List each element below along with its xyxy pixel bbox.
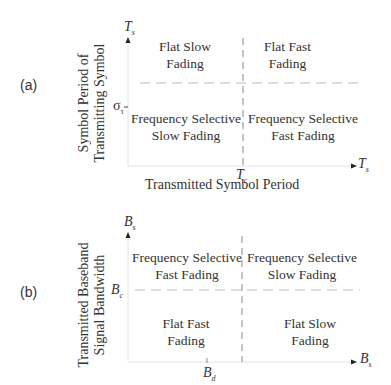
panel-b-x-arrow-icon	[351, 360, 357, 365]
panel-b-y-label-line2: Signal Bandwidth	[92, 220, 108, 385]
panel-a-region-flat-fast: Flat FastFading	[250, 38, 325, 72]
panel-b-y-axis-symbol: Bs	[124, 214, 136, 232]
panel-b-x-axis-symbol: Bs	[360, 351, 372, 369]
panel-a-region-flat-slow: Flat SlowFading	[135, 38, 235, 72]
panel-a-x-label: Transmitted Symbol Period	[145, 177, 299, 193]
panel-b-y-label: Transmitted Baseband Signal Bandwidth	[76, 220, 110, 385]
panel-a-y-label-line2: Transmitting Symbol	[92, 18, 108, 188]
panel-a-y-label-line1: Symbol Period of	[76, 18, 92, 188]
panel-a-y-tick-label: στ	[113, 98, 124, 116]
panel-a-region-fs-slow: Frequency SelectiveSlow Fading	[128, 110, 244, 144]
panel-b-region-fs-fast: Frequency SelectiveFast Fading	[129, 249, 245, 283]
panel-a-tag: (a)	[20, 77, 37, 93]
panel-a-x-arrow-icon	[351, 164, 357, 169]
panel-b-y-label-line1: Transmitted Baseband	[76, 220, 92, 385]
panel-b-y-arrow-icon	[126, 232, 131, 238]
panel-b-tag: (b)	[20, 284, 37, 300]
panel-a-x-axis-symbol: Ts	[358, 156, 369, 174]
panel-b-region-flat-fast: Flat FastFading	[136, 315, 236, 349]
panel-b-region-flat-slow: Flat SlowFading	[260, 315, 360, 349]
panel-b-region-fs-slow: Frequency SelectiveSlow Fading	[244, 249, 360, 283]
panel-a-y-arrow-icon	[126, 37, 131, 43]
panel-a-y-label: Symbol Period of Transmitting Symbol	[76, 18, 110, 188]
panel-b-x-tick-label: Bd	[203, 365, 216, 383]
panel-a-y-axis-symbol: Ts	[124, 19, 135, 37]
panel-b-y-tick-label: Bc	[111, 282, 123, 300]
panel-a-region-fs-fast: Frequency SelectiveFast Fading	[245, 110, 361, 144]
